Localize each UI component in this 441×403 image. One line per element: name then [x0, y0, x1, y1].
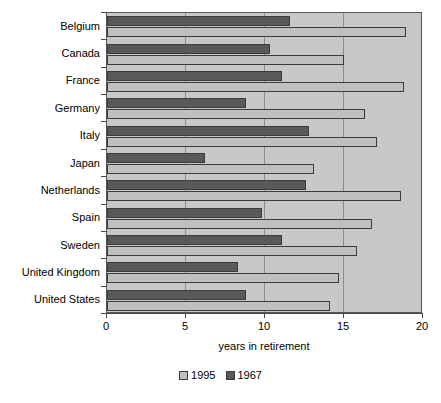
- bar-1967: [107, 262, 238, 272]
- bar-group: [107, 150, 421, 177]
- bar-chart: BelgiumCanadaFranceGermanyItalyJapanNeth…: [0, 0, 441, 403]
- bar-1967: [107, 44, 270, 54]
- y-axis-tick: [101, 286, 106, 287]
- category-label: Belgium: [0, 20, 100, 32]
- bar-group: [107, 177, 421, 204]
- x-axis-tick-label: 5: [165, 320, 205, 333]
- bar-1995: [107, 246, 357, 256]
- x-axis-tick-label: 0: [86, 320, 126, 333]
- bar-group: [107, 13, 421, 40]
- bar-1967: [107, 126, 309, 136]
- bar-group: [107, 287, 421, 313]
- bar-1967: [107, 16, 290, 26]
- x-axis-title: years in retirement: [106, 340, 422, 352]
- category-label: Sweden: [0, 239, 100, 251]
- bar-1967: [107, 235, 282, 245]
- y-axis-tick: [101, 176, 106, 177]
- bar-1995: [107, 273, 339, 283]
- category-label: Japan: [0, 157, 100, 169]
- legend-label: 1967: [238, 369, 262, 381]
- bar-1995: [107, 55, 344, 65]
- x-axis-tick: [185, 313, 186, 318]
- legend-label: 1995: [191, 369, 215, 381]
- legend-swatch-icon: [226, 371, 235, 380]
- category-label: Canada: [0, 47, 100, 59]
- y-axis-tick: [101, 94, 106, 95]
- y-axis-tick: [101, 121, 106, 122]
- bar-group: [107, 95, 421, 122]
- bar-1995: [107, 137, 377, 147]
- legend-entry[interactable]: 1995: [179, 369, 215, 381]
- y-axis-tick: [101, 39, 106, 40]
- bar-group: [107, 205, 421, 232]
- bar-1995: [107, 27, 406, 37]
- bar-1995: [107, 301, 330, 311]
- category-label: United Kingdom: [0, 266, 100, 278]
- y-axis-tick: [101, 67, 106, 68]
- bar-group: [107, 68, 421, 95]
- x-axis-tick-label: 10: [244, 320, 284, 333]
- bar-1967: [107, 153, 205, 163]
- x-axis-tick: [422, 313, 423, 318]
- x-axis-tick-label: 20: [402, 320, 441, 333]
- x-axis-tick: [264, 313, 265, 318]
- bar-1995: [107, 164, 314, 174]
- x-axis-tick-label: 15: [323, 320, 363, 333]
- bar-rows: [107, 13, 421, 312]
- bar-1995: [107, 191, 401, 201]
- bar-group: [107, 122, 421, 149]
- bar-1967: [107, 180, 306, 190]
- x-axis-tick: [106, 313, 107, 318]
- category-label: Italy: [0, 129, 100, 141]
- x-axis-tick: [343, 313, 344, 318]
- y-axis-tick: [101, 258, 106, 259]
- bar-1995: [107, 109, 365, 119]
- bar-1967: [107, 98, 246, 108]
- bar-1967: [107, 208, 262, 218]
- bar-1995: [107, 82, 404, 92]
- category-label: United States: [0, 293, 100, 305]
- bar-group: [107, 40, 421, 67]
- category-label: Spain: [0, 211, 100, 223]
- category-label: Netherlands: [0, 184, 100, 196]
- legend-entry[interactable]: 1967: [226, 369, 262, 381]
- bar-1967: [107, 71, 282, 81]
- category-label: France: [0, 74, 100, 86]
- category-label: Germany: [0, 102, 100, 114]
- bar-1967: [107, 290, 246, 300]
- y-axis-tick: [101, 231, 106, 232]
- y-axis-tick: [101, 149, 106, 150]
- plot-area: [106, 12, 422, 313]
- bar-group: [107, 259, 421, 286]
- y-axis-tick: [101, 204, 106, 205]
- bar-1995: [107, 219, 372, 229]
- y-axis-tick: [101, 12, 106, 13]
- bar-group: [107, 232, 421, 259]
- legend-swatch-icon: [179, 371, 188, 380]
- chart-legend: 19951967: [0, 369, 441, 381]
